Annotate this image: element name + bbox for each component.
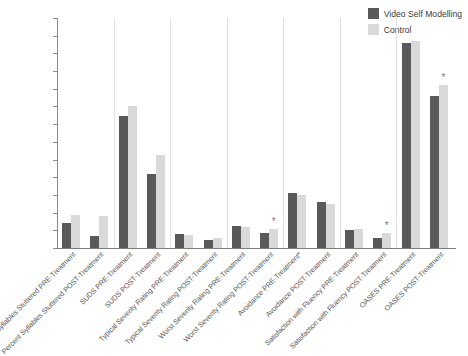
y-tick-mark — [53, 248, 57, 249]
x-axis-labels: Percent Syllables Stuttered PRE-Treatmen… — [57, 250, 457, 355]
bar[interactable] — [184, 235, 193, 248]
bar[interactable] — [241, 227, 250, 248]
significance-asterisk: * — [441, 73, 445, 83]
bar[interactable] — [90, 236, 99, 248]
bar-group — [396, 18, 424, 248]
bar-group — [227, 18, 255, 248]
x-axis-line — [57, 248, 456, 249]
bar[interactable] — [354, 229, 363, 248]
bar-group — [340, 18, 368, 248]
bar-group — [114, 18, 142, 248]
bar[interactable] — [288, 193, 297, 248]
bar-chart: Video Self Modelling Control 05101520253… — [0, 0, 468, 356]
bar[interactable]: * — [382, 233, 391, 248]
bar-group: * — [425, 18, 453, 248]
bar[interactable] — [345, 230, 354, 248]
bar-group — [198, 18, 226, 248]
bar[interactable] — [99, 216, 108, 248]
bar[interactable] — [297, 195, 306, 248]
bars-layer: *** — [57, 18, 453, 248]
bar[interactable] — [430, 96, 439, 248]
bar-group — [57, 18, 85, 248]
bar-group — [312, 18, 340, 248]
bar[interactable]: * — [439, 85, 448, 248]
bar-group — [283, 18, 311, 248]
bar[interactable] — [213, 238, 222, 248]
bar[interactable] — [402, 43, 411, 248]
bar[interactable] — [326, 204, 335, 248]
bar[interactable] — [147, 174, 156, 248]
significance-asterisk: * — [385, 221, 389, 231]
x-axis-label: Percent Syllables Stuttered POST-Treatme… — [0, 250, 106, 356]
bar[interactable] — [71, 215, 80, 248]
bar[interactable] — [317, 202, 326, 248]
bar-group — [170, 18, 198, 248]
legend-label-video-self-modelling: Video Self Modelling — [384, 9, 462, 19]
bar[interactable] — [260, 233, 269, 248]
bar-group: * — [255, 18, 283, 248]
bar[interactable] — [119, 116, 128, 248]
bar[interactable] — [373, 238, 382, 248]
bar[interactable] — [62, 223, 71, 248]
bar[interactable] — [156, 155, 165, 248]
significance-asterisk: * — [272, 217, 276, 227]
bar[interactable] — [128, 106, 137, 248]
bar[interactable] — [175, 234, 184, 248]
bar[interactable]: * — [269, 229, 278, 248]
bar[interactable] — [232, 226, 241, 248]
bar[interactable] — [204, 240, 213, 248]
plot-area: 05101520253035404550556065 *** — [57, 18, 453, 248]
bar[interactable] — [411, 41, 420, 248]
bar-group — [142, 18, 170, 248]
bar-group: * — [368, 18, 396, 248]
bar-group — [85, 18, 113, 248]
